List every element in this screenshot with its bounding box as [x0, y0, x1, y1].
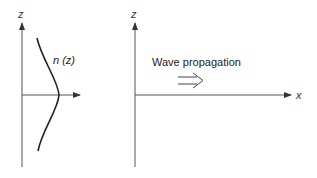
right-panel: z x Wave propagation — [130, 8, 302, 167]
diagram: z n (z) z x Wave propagation — [0, 0, 317, 178]
double-arrow-icon — [178, 73, 203, 88]
curve-label: n (z) — [53, 54, 75, 66]
wave-propagation-label: Wave propagation — [152, 56, 241, 68]
right-z-axis-label: z — [130, 8, 137, 20]
left-z-axis-label: z — [17, 8, 24, 20]
x-axis-label: x — [295, 89, 302, 101]
left-panel: z n (z) — [17, 8, 80, 167]
